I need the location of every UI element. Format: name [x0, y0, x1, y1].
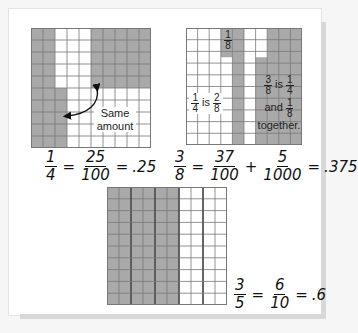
quarter-is-two-eighths-label: 14 is 28	[189, 93, 223, 114]
fraction-3-8: 38	[174, 150, 186, 183]
fraction-1-4: 14	[45, 150, 57, 183]
same-amount-label: Same amount	[94, 107, 136, 132]
fraction-25-100: 25100	[81, 150, 110, 183]
fraction-37-100: 37100	[210, 150, 239, 183]
fraction-3-5: 35	[234, 278, 246, 311]
one-eighth-label: 18	[222, 30, 234, 51]
equation-one-quarter: 14 = 25100 = .25	[43, 150, 156, 183]
hundred-grid-three-fifths	[107, 187, 227, 305]
fraction-6-10: 610	[270, 278, 289, 311]
decimal-value: .375	[324, 158, 357, 176]
three-eighths-explanation-label: 38 is 14 and 18 together.	[256, 75, 302, 132]
panel-shadow-bottom	[20, 314, 326, 319]
decimal-value: .6	[312, 286, 326, 304]
decimal-value: .25	[132, 158, 156, 176]
equation-three-eighths: 38 = 37100 + 51000 = .375	[172, 150, 358, 183]
equation-three-fifths: 35 = 610 = .6	[232, 278, 326, 311]
fraction-5-1000: 51000	[263, 150, 301, 183]
